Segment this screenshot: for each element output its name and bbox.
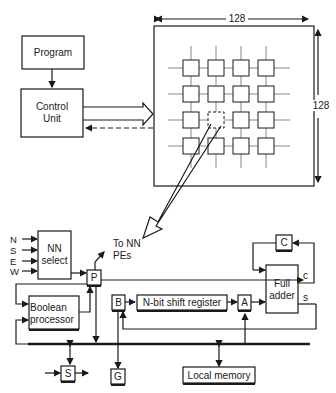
input-w: W (10, 266, 19, 277)
boolean-label-1: Boolean (30, 302, 67, 313)
to-nn-label-1: To NN (113, 238, 141, 249)
carry-out-label: c (303, 270, 308, 281)
program-label: Program (22, 47, 84, 58)
pe-grid (183, 60, 274, 154)
c-label: C (276, 237, 292, 248)
full-adder-box (266, 265, 298, 313)
p-label: P (87, 272, 101, 283)
sum-out-label: s (303, 292, 308, 303)
full-adder-label-2: adder (266, 290, 298, 301)
control-unit-label-1: Control (21, 101, 83, 112)
a-label: A (238, 297, 251, 308)
nn-select-label-2: select (38, 255, 71, 266)
diagram-canvas (0, 0, 336, 393)
control-unit-label-2: Unit (21, 113, 83, 124)
input-s: S (10, 245, 16, 256)
array-height-label: 128 (310, 100, 332, 111)
to-nn-label-2: PEs (113, 250, 131, 261)
g-label: G (111, 371, 125, 382)
nn-select-label-1: NN (38, 243, 71, 254)
b-label: B (112, 297, 125, 308)
boolean-label-2: processor (30, 314, 74, 325)
input-n: N (10, 234, 17, 245)
shift-register-label: N-bit shift register (137, 297, 227, 308)
control-broadcast-arrow (83, 103, 153, 125)
full-adder-label-1: Full (266, 278, 298, 289)
pe-array-box (154, 26, 314, 186)
array-width-label: 128 (226, 13, 248, 24)
local-memory-label: Local memory (183, 370, 255, 381)
s-label: S (61, 368, 75, 379)
